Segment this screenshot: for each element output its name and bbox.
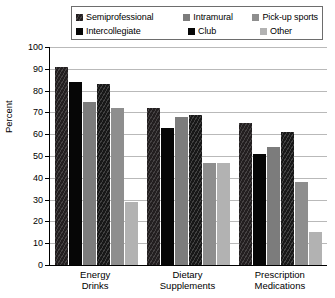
bar-groups (50, 47, 327, 265)
y-axis-tick-label: 70 (33, 108, 43, 117)
legend-swatch-intercollegiate-icon (76, 28, 83, 35)
x-axis-category-labels: EnergyDrinksDietarySupplementsPrescripti… (49, 269, 326, 297)
chart-legend: Semiprofessional Intramural Pick-up spor… (71, 6, 323, 40)
y-axis-tick-label: 60 (33, 130, 43, 139)
bar-group-prescription-medications (235, 47, 327, 265)
bar-other-energy-drinks (125, 202, 138, 265)
y-axis-tick-label: 20 (33, 217, 43, 226)
legend-label-semiprofessional: Semiprofessional (86, 13, 153, 22)
legend-label-intercollegiate: Intercollegiate (86, 27, 141, 36)
bar-semiprofessional-dietary-supplements (147, 108, 160, 265)
legend-item-semiprofessional: Semiprofessional (76, 10, 183, 24)
y-axis-tick-label: 30 (33, 195, 43, 204)
bar-pick-up-sports-energy-drinks (111, 108, 124, 265)
y-axis-tick-label: 90 (33, 64, 43, 73)
legend-item-other: Other (260, 24, 292, 38)
bar-group-dietary-supplements (142, 47, 234, 265)
x-axis-label-line: Prescription (234, 269, 326, 280)
legend-item-intercollegiate: Intercollegiate (76, 24, 188, 38)
x-axis-label-dietary-supplements: DietarySupplements (141, 269, 233, 297)
bar-intramural-energy-drinks (83, 102, 96, 266)
y-axis-tick-label: 100 (28, 43, 43, 52)
legend-swatch-club-icon (188, 28, 195, 35)
bar-semiprofessional-energy-drinks (55, 67, 68, 265)
y-axis-tick-label: 0 (38, 261, 43, 270)
legend-swatch-semiprofessional-icon (76, 14, 83, 21)
legend-item-pickup-sports: Pick-up sports (252, 10, 318, 24)
legend-label-pickup-sports: Pick-up sports (262, 13, 318, 22)
bar-club-dietary-supplements (189, 115, 202, 265)
bar-intercollegiate-energy-drinks (69, 82, 82, 265)
gridline (50, 265, 327, 266)
bar-chart: Semiprofessional Intramural Pick-up spor… (0, 0, 335, 298)
bar-other-dietary-supplements (217, 163, 230, 265)
legend-label-club: Club (198, 27, 216, 36)
y-axis-tick-label: 40 (33, 173, 43, 182)
bar-group-energy-drinks (50, 47, 142, 265)
x-axis-label-prescription-medications: PrescriptionMedications (234, 269, 326, 297)
legend-swatch-intramural-icon (183, 14, 190, 21)
x-axis-label-line: Dietary (141, 269, 233, 280)
legend-row-1: Semiprofessional Intramural Pick-up spor… (76, 10, 318, 24)
legend-row-2: Intercollegiate Club Other (76, 24, 318, 38)
legend-swatch-pickup-sports-icon (252, 14, 259, 21)
x-axis-label-energy-drinks: EnergyDrinks (49, 269, 141, 297)
legend-swatch-other-icon (260, 28, 267, 35)
bar-pick-up-sports-prescription-medications (295, 182, 308, 265)
x-axis-label-line: Drinks (49, 280, 141, 291)
bar-semiprofessional-prescription-medications (239, 123, 252, 265)
y-axis-tick-label: 80 (33, 86, 43, 95)
legend-label-intramural: Intramural (193, 13, 233, 22)
bar-intercollegiate-dietary-supplements (161, 128, 174, 265)
legend-item-club: Club (188, 24, 260, 38)
y-axis-tick (45, 265, 50, 266)
bar-pick-up-sports-dietary-supplements (203, 163, 216, 265)
legend-item-intramural: Intramural (183, 10, 252, 24)
y-axis-tick-label: 10 (33, 239, 43, 248)
legend-label-other: Other (270, 27, 292, 36)
bar-club-energy-drinks (97, 84, 110, 265)
x-axis-label-line: Energy (49, 269, 141, 280)
x-axis-label-line: Supplements (141, 280, 233, 291)
bar-intramural-dietary-supplements (175, 117, 188, 265)
y-axis-tick-label: 50 (33, 152, 43, 161)
x-axis-label-line: Medications (234, 280, 326, 291)
bar-other-prescription-medications (309, 232, 322, 265)
y-axis-title: Percent (3, 100, 14, 133)
bar-intramural-prescription-medications (267, 147, 280, 265)
bar-intercollegiate-prescription-medications (253, 154, 266, 265)
plot-area: 1009080706050403020100 (49, 47, 327, 266)
bar-club-prescription-medications (281, 132, 294, 265)
